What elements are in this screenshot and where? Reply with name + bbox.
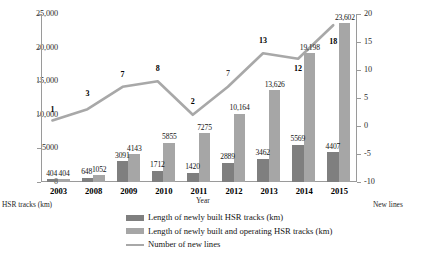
legend-swatch-line-icon bbox=[126, 244, 144, 246]
line-label-2014: 12 bbox=[291, 65, 305, 73]
line-label-2003: 1 bbox=[46, 106, 58, 114]
line-label-2008: 3 bbox=[82, 90, 94, 98]
bar-dark-label-2010: 1712 bbox=[145, 161, 170, 169]
x-axis-label-2013: 2013 bbox=[252, 186, 287, 196]
bar-dark-label-2011: 1420 bbox=[180, 163, 205, 171]
y-axis-right-tickmark bbox=[357, 154, 361, 155]
y-axis-right-title: New lines bbox=[373, 200, 403, 209]
bar-light-label-2010: 5855 bbox=[156, 133, 182, 141]
y-axis-right-tickmark bbox=[357, 126, 361, 127]
y-axis-right-tickmark bbox=[357, 182, 361, 183]
legend-label-built-and-operating: Length of newly built and operating HSR … bbox=[148, 227, 332, 236]
legend-item-built-and-operating: Length of newly built and operating HSR … bbox=[126, 226, 332, 237]
y-axis-right-tick-15: 15 bbox=[364, 38, 404, 46]
x-axis-label-2015: 2015 bbox=[322, 186, 357, 196]
bar-light-label-2008: 1052 bbox=[86, 166, 112, 174]
y-axis-right-tick--10: -10 bbox=[364, 178, 404, 186]
x-axis-label-2003: 2003 bbox=[41, 186, 76, 196]
bar-dark-label-2015: 4407 bbox=[320, 143, 345, 151]
y-axis-left-title: HSR tracks (km) bbox=[2, 200, 52, 209]
bar-light-label-2014: 19,198 bbox=[295, 44, 325, 52]
y-axis-right-tick-10: 10 bbox=[364, 66, 404, 74]
y-axis-right-tick-5: 5 bbox=[364, 94, 404, 102]
line-label-2015: 18 bbox=[326, 38, 340, 46]
legend-swatch-light-icon bbox=[126, 228, 144, 234]
legend-item-newly-built: Length of newly built HSR tracks (km) bbox=[126, 212, 332, 223]
bar-light-label-2013: 13,626 bbox=[260, 81, 290, 89]
bar-dark-label-2012: 2889 bbox=[215, 153, 240, 161]
line-label-2011: 2 bbox=[187, 98, 199, 106]
y-axis-right-tick-20: 20 bbox=[364, 10, 404, 18]
x-axis-label-2009: 2009 bbox=[111, 186, 146, 196]
chart-legend: Length of newly built HSR tracks (km) Le… bbox=[126, 212, 332, 250]
y-axis-left-tickmark bbox=[37, 182, 41, 183]
line-label-2009: 7 bbox=[117, 71, 129, 79]
line-label-2010: 8 bbox=[152, 65, 164, 73]
x-axis-title: Year bbox=[196, 196, 210, 205]
legend-label-newly-built: Length of newly built HSR tracks (km) bbox=[148, 213, 283, 222]
chart-container: 0 5000 10,000 15,000 20,000 25,000 -10 -… bbox=[0, 0, 422, 257]
legend-item-new-lines: Number of new lines bbox=[126, 239, 332, 250]
bar-light-label-2015: 23,602 bbox=[330, 14, 360, 22]
bar-dark-label-2013: 3462 bbox=[250, 149, 275, 157]
line-label-2012: 7 bbox=[222, 70, 234, 78]
x-axis-label-2008: 2008 bbox=[76, 186, 111, 196]
bar-dark-label-2014: 5569 bbox=[285, 135, 310, 143]
y-axis-right-tickmark bbox=[357, 98, 361, 99]
y-axis-right-tick-0: 0 bbox=[364, 122, 404, 130]
line-label-2013: 13 bbox=[256, 37, 270, 45]
line-series-new-lines bbox=[41, 14, 357, 182]
y-axis-right-tick--5: -5 bbox=[364, 150, 404, 158]
bar-dark-label-2009: 3091 bbox=[110, 152, 135, 160]
y-axis-right-tickmark bbox=[357, 70, 361, 71]
plot-area: 1 3 7 8 2 7 13 12 18 404 648 3091 1712 1… bbox=[41, 14, 357, 182]
y-axis-right-tickmark bbox=[357, 42, 361, 43]
x-axis-label-2010: 2010 bbox=[146, 186, 181, 196]
bar-light-label-2012: 10,164 bbox=[225, 104, 255, 112]
x-axis-label-2011: 2011 bbox=[181, 186, 216, 196]
bar-light-label-2011: 7275 bbox=[192, 124, 218, 132]
legend-swatch-dark-icon bbox=[126, 215, 144, 221]
x-axis-label-2014: 2014 bbox=[287, 186, 322, 196]
x-axis-label-2012: 2012 bbox=[217, 186, 252, 196]
bar-light-label-2009: 4143 bbox=[121, 145, 147, 153]
bar-light-label-2003: 404 bbox=[52, 170, 76, 178]
legend-label-new-lines: Number of new lines bbox=[148, 240, 220, 249]
